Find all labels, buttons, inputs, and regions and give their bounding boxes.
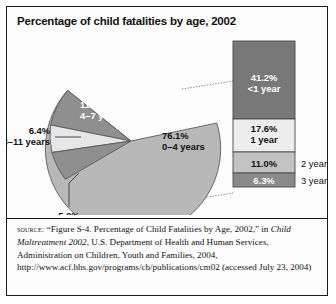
breakout-label-1-year-pct: 17.6% [251,123,278,134]
pie-label-8-11-age: 8–11 years [7,136,50,147]
breakout-label-under-1-year-age: <1 year [248,83,281,94]
breakout-bar: 41.2% <1 year 17.6% 1 year 11.0% 2 years… [233,41,327,187]
page-title: Percentage of child fatalities by age, 2… [17,15,236,27]
source-label: source: [17,225,44,234]
breakout-label-2-years-age: 2 years [301,158,327,169]
breakout-label-under-1-year-pct: 41.2% [251,72,278,83]
source-divider [7,218,327,219]
pie-label-0-4-age: 0–4 years [162,141,205,152]
pie-slices [45,90,220,215]
breakout-label-1-year-age: 1 year [250,134,277,145]
pie-label-4-7-pct: 11.8% [80,99,107,110]
source-line1: “Figure S-4. Percentage of Child Fatalit… [47,224,269,234]
chart-area: 76.1% 0–4 years 11.8% 4–7 years 6.4% 8–1… [7,33,327,215]
pie-chart-svg: 76.1% 0–4 years 11.8% 4–7 years 6.4% 8–1… [7,33,327,215]
pie-label-0-4-pct: 76.1% [162,130,189,141]
pie-label-4-7-age: 4–7 years [80,110,123,121]
pie-label-8-11-pct: 6.4% [29,125,51,136]
breakout-label-3-years-pct: 6.3% [253,175,275,186]
source-note: source: “Figure S-4. Percentage of Child… [17,223,319,274]
figure-container: Percentage of child fatalities by age, 2… [6,6,328,296]
breakout-label-2-years-pct: 11.0% [251,158,278,169]
breakout-label-3-years-age: 3 years [301,175,327,186]
pie-label-12-17-pct: 5.9% [58,210,80,215]
breakout-connector-top-line [182,81,233,89]
